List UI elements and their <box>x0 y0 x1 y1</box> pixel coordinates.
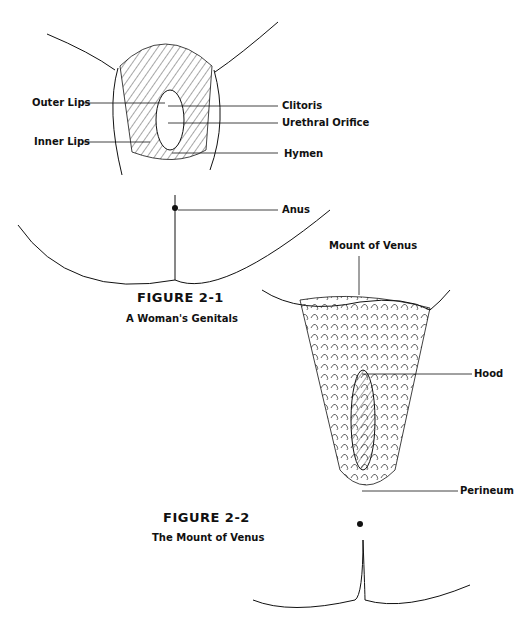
label-clitoris: Clitoris <box>282 100 322 112</box>
label-hymen: Hymen <box>284 148 323 160</box>
figure-2-1-caption: A Woman's Genitals <box>126 313 238 324</box>
label-urethral-orifice: Urethral Orifice <box>282 117 369 129</box>
figure-2-1-title: FIGURE 2-1 <box>137 290 224 305</box>
label-hood: Hood <box>474 368 503 380</box>
figure-2-2-title: FIGURE 2-2 <box>163 510 250 525</box>
figure-2-2-caption: The Mount of Venus <box>152 532 264 543</box>
label-inner-lips: Inner Lips <box>34 136 90 148</box>
label-outer-lips: Outer Lips <box>32 97 91 109</box>
label-anus: Anus <box>282 204 310 216</box>
label-perineum: Perineum <box>460 485 514 497</box>
label-mount-of-venus: Mount of Venus <box>329 240 417 252</box>
